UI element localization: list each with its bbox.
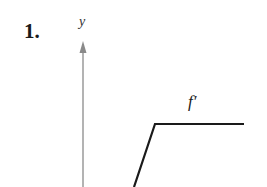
graph-svg [0,0,267,187]
problem-number: 1. [24,19,40,44]
y-axis-arrow-icon [80,41,87,53]
y-axis [80,41,87,187]
curve-label: f′ [188,92,196,112]
figure: 1. y f′ [0,0,267,187]
f-prime-curve [134,124,244,187]
y-axis-label: y [79,14,85,30]
